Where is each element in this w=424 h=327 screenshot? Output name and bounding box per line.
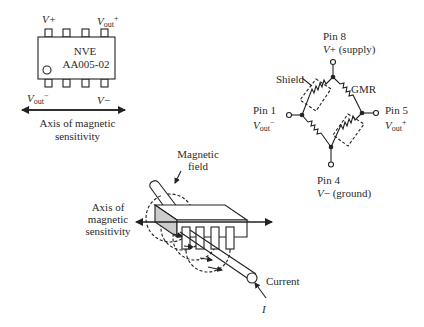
bridge-shield-label: Shield [276, 73, 304, 85]
out-subscript: out [34, 97, 44, 106]
bridge-pin5-signal: Vout+ [385, 117, 406, 135]
out-subscript: out [104, 20, 114, 29]
sensor-3d [146, 171, 266, 298]
bridge-pin1-name: Pin 1 [253, 104, 276, 116]
v-symbol: V [97, 15, 104, 27]
bridge-pin4-desc: V− (ground) [317, 187, 371, 199]
minus-superscript: − [270, 118, 275, 127]
minus-superscript: − [44, 91, 49, 100]
bridge-pin8-name: Pin 8 [323, 30, 346, 42]
out-subscript: out [260, 124, 270, 133]
magnetic-field-label-line1: Magnetic [168, 148, 228, 160]
bridge-pin8-desc: V+ (supply) [323, 43, 375, 55]
chip-pin-voutminus-label: Vout− [27, 90, 48, 108]
chip-axis-label-line2: sensitivity [25, 130, 130, 142]
sensor-axis-label-line2: magnetic [80, 213, 136, 225]
v-symbol: V [385, 119, 392, 131]
v-symbol: V [253, 119, 260, 131]
vminus-symbol: V [317, 187, 324, 199]
sensor-axis-label-line3: sensitivity [80, 225, 136, 237]
bridge-pin5-name: Pin 5 [385, 104, 408, 116]
bridge-pin4-name: Pin 4 [317, 174, 340, 186]
plus-superscript: + [402, 118, 407, 127]
chip-name-line1: NVE [60, 45, 110, 57]
chip-pin-vminus-label: V− [97, 94, 111, 106]
chip-pin-vplus-label: V+ [42, 13, 56, 25]
bridge-gmr-label: GMR [351, 83, 376, 95]
out-subscript: out [392, 124, 402, 133]
plus-superscript: + [114, 14, 119, 23]
sensor-axis-label-line1: Axis of [80, 201, 136, 213]
bridge-pin1-signal: Vout− [253, 117, 274, 135]
current-symbol: I [262, 303, 266, 315]
magnetic-field-label-line2: field [168, 160, 228, 172]
v-symbol: V [27, 92, 34, 104]
chip-name-line2: AA005-02 [56, 58, 116, 70]
current-label: Current [266, 275, 300, 287]
chip-axis-label-line1: Axis of magnetic [25, 117, 130, 129]
vplus-symbol: V [323, 43, 330, 55]
chip-pin-voutplus-label: Vout+ [97, 13, 118, 31]
